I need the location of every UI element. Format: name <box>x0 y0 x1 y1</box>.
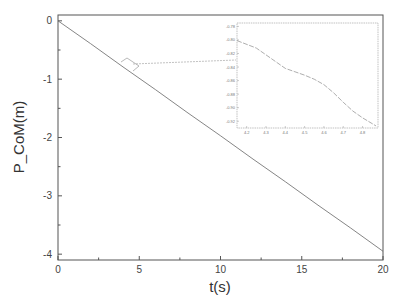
inset-y-tick-label: -0.90 <box>226 105 236 110</box>
x-axis: 05101520 <box>55 256 389 275</box>
inset-y-tick-label: -0.84 <box>226 65 236 70</box>
inset-y-tick-label: -0.88 <box>226 92 236 97</box>
inset-x-tick-label: 4.8 <box>360 130 366 135</box>
y-tick-label: -1 <box>43 74 52 85</box>
y-axis-title: P_CoM(m) <box>10 101 27 174</box>
inset-x-tick-label: 4.5 <box>302 130 308 135</box>
inset-y-tick-label: -0.80 <box>226 37 236 42</box>
inset-y-tick-label: -0.92 <box>226 119 236 124</box>
inset-x-tick-label: 4.6 <box>321 130 327 135</box>
inset-y-tick-label: -0.78 <box>226 24 236 29</box>
x-tick-label: 20 <box>377 264 389 275</box>
inset-y-tick-label: -0.82 <box>226 51 236 56</box>
x-tick-label: 0 <box>55 264 61 275</box>
y-tick-label: 0 <box>46 15 52 26</box>
x-tick-label: 5 <box>136 264 142 275</box>
y-tick-label: -3 <box>43 190 52 201</box>
x-tick-label: 15 <box>296 264 308 275</box>
inset-x-tick-label: 4.7 <box>340 130 346 135</box>
x-tick-label: 10 <box>215 264 227 275</box>
inset-y-tick-label: -0.86 <box>226 78 236 83</box>
x-axis-title: t(s) <box>209 278 231 295</box>
zoom-region-marker <box>121 58 139 71</box>
y-tick-label: -4 <box>43 249 52 260</box>
y-tick-label: -2 <box>43 132 52 143</box>
inset-x-tick-label: 4.2 <box>244 130 250 135</box>
inset-x-tick-label: 4.3 <box>263 130 269 135</box>
inset-frame <box>237 23 378 128</box>
zoom-arrow <box>133 60 236 64</box>
y-axis: 0-1-2-3-4 <box>43 15 62 259</box>
chart: 0-1-2-3-4 05101520 -0.78-0.80-0.82-0.84-… <box>0 0 408 308</box>
inset-x-tick-label: 4.4 <box>283 130 289 135</box>
